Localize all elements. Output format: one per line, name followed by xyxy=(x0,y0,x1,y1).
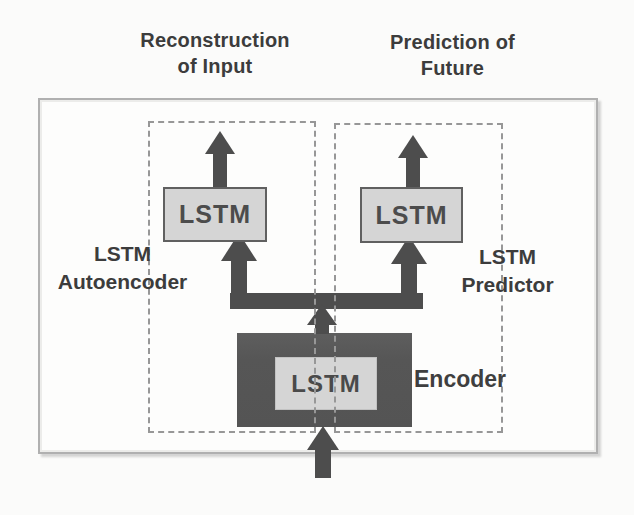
autoencoder-label-line: LSTM xyxy=(45,240,200,268)
predictor-label-line: LSTM xyxy=(430,243,585,271)
diagram-canvas: Reconstruction of Input Prediction of Fu… xyxy=(0,0,634,515)
encoder-label: Encoder xyxy=(414,366,506,393)
input-arrow-shaft xyxy=(315,447,331,478)
caption-line: of Input xyxy=(130,53,300,79)
caption-reconstruction-of-input: Reconstruction of Input xyxy=(130,27,300,79)
autoencoder-label-line: Autoencoder xyxy=(45,268,200,296)
caption-prediction-of-future: Prediction of Future xyxy=(370,29,535,81)
caption-line: Prediction of xyxy=(370,29,535,55)
input-arrow-head xyxy=(307,426,339,450)
autoencoder-label: LSTM Autoencoder xyxy=(45,240,200,296)
caption-line: Reconstruction xyxy=(130,27,300,53)
caption-line: Future xyxy=(370,55,535,81)
predictor-label-line: Predictor xyxy=(430,271,585,299)
predictor-label: LSTM Predictor xyxy=(430,243,585,299)
